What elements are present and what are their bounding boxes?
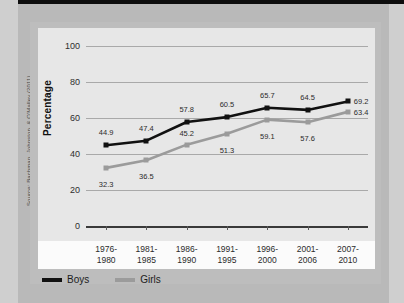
- data-point-label: 57.8: [179, 105, 194, 114]
- x-axis-tick-label-line: 2007-: [337, 244, 359, 255]
- y-axis-tick-label: 0: [75, 221, 80, 231]
- data-point-marker: [184, 142, 189, 147]
- data-point-label: 47.4: [139, 124, 154, 133]
- x-axis-tick-label-line: 1996-: [256, 244, 278, 255]
- x-axis-tick-mark: [308, 226, 309, 230]
- right-gutter: [389, 4, 404, 303]
- legend-swatch-boys: [42, 278, 62, 282]
- x-axis-tick-mark: [348, 226, 349, 230]
- x-axis-tick-label-line: 1980: [95, 255, 117, 266]
- x-axis-tick-mark: [146, 226, 147, 230]
- x-axis-tick-label-line: 2006: [297, 255, 319, 266]
- data-point-marker: [184, 119, 189, 124]
- data-point-label: 69.2: [354, 97, 369, 106]
- x-axis-tick-label-line: 1991-: [216, 244, 238, 255]
- data-point-label: 57.6: [300, 134, 315, 143]
- data-point-label: 36.5: [139, 172, 154, 181]
- data-point-label: 32.3: [99, 180, 114, 189]
- legend-swatch-girls: [115, 278, 135, 282]
- chart-figure: Percentage 02040608010044.947.457.860.56…: [30, 22, 381, 284]
- x-axis-tick-mark: [267, 226, 268, 230]
- data-point-marker: [225, 115, 230, 120]
- figure-page: Source: Bachman, Johnston, & O'Malley (2…: [0, 0, 404, 303]
- legend-label: Girls: [140, 274, 161, 285]
- data-point-label: 65.7: [260, 91, 275, 100]
- data-point-label: 59.1: [260, 132, 275, 141]
- x-axis-tick-label-line: 2001-: [297, 244, 319, 255]
- y-axis-title: Percentage: [42, 80, 53, 136]
- data-point-marker: [305, 107, 310, 112]
- data-point-marker: [305, 120, 310, 125]
- x-axis-label-band: [38, 241, 375, 269]
- plot-area: 02040608010044.947.457.860.565.764.569.2…: [86, 46, 368, 226]
- legend-item-girls[interactable]: Girls: [115, 274, 161, 285]
- data-point-label: 63.4: [354, 107, 369, 116]
- top-black-bar: [18, 0, 404, 4]
- data-point-marker: [104, 165, 109, 170]
- chart-plot-panel: Percentage 02040608010044.947.457.860.56…: [38, 28, 375, 241]
- data-point-marker: [225, 131, 230, 136]
- left-gutter: [0, 0, 18, 303]
- chart-legend: BoysGirls: [42, 274, 161, 285]
- x-axis-tick-label-line: 1986-: [176, 244, 198, 255]
- data-point-marker: [104, 143, 109, 148]
- data-point-marker: [265, 105, 270, 110]
- data-point-label: 64.5: [300, 93, 315, 102]
- x-axis-tick-label: 1991-1995: [216, 244, 238, 266]
- data-point-marker: [265, 117, 270, 122]
- data-point-label: 51.3: [220, 146, 235, 155]
- x-axis-tick-mark: [187, 226, 188, 230]
- data-point-marker: [345, 109, 350, 114]
- x-axis-tick-label-line: 1990: [176, 255, 198, 266]
- y-axis-tick-label: 100: [65, 41, 80, 51]
- x-axis-tick-label: 1981-1985: [136, 244, 158, 266]
- data-point-marker: [144, 138, 149, 143]
- legend-label: Boys: [67, 274, 89, 285]
- y-axis-tick-label: 40: [70, 149, 80, 159]
- data-point-label: 44.9: [99, 128, 114, 137]
- x-axis-tick-label-line: 2000: [256, 255, 278, 266]
- x-axis-tick-label-line: 1981-: [136, 244, 158, 255]
- x-axis-tick-label: 2001-2006: [297, 244, 319, 266]
- x-axis-tick-label: 1986-1990: [176, 244, 198, 266]
- x-axis-tick-label: 2007-2010: [337, 244, 359, 266]
- data-point-label: 60.5: [220, 100, 235, 109]
- x-axis-tick-label-line: 1985: [136, 255, 158, 266]
- data-point-marker: [144, 158, 149, 163]
- x-axis-tick-mark: [106, 226, 107, 230]
- legend-item-boys[interactable]: Boys: [42, 274, 89, 285]
- x-axis-tick-label: 1976-1980: [95, 244, 117, 266]
- x-axis-tick-label-line: 2010: [337, 255, 359, 266]
- data-point-marker: [345, 99, 350, 104]
- x-axis-tick-label: 1996-2000: [256, 244, 278, 266]
- x-axis-tick-mark: [227, 226, 228, 230]
- y-axis-tick-label: 20: [70, 185, 80, 195]
- y-axis-tick-label: 60: [70, 113, 80, 123]
- x-axis-tick-label-line: 1976-: [95, 244, 117, 255]
- x-axis-tick-label-line: 1995: [216, 255, 238, 266]
- y-axis-tick-label: 80: [70, 77, 80, 87]
- data-point-label: 45.2: [179, 129, 194, 138]
